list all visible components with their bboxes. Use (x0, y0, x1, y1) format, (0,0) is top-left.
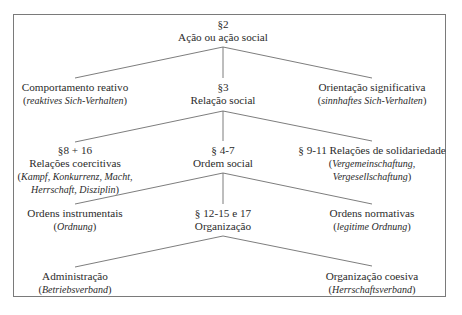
node-german-term: reaktives Sich-Verhalten (27, 95, 124, 106)
node-section: § 4-7 (193, 144, 253, 157)
node-label: Organização coesiva (326, 270, 419, 283)
node-label: Ação ou ação social (178, 31, 268, 44)
node-german-term: Herrschaftsverband (332, 284, 412, 295)
node-relacoes-coercitivas: §8 + 16 Relações coercitivas (Kampf, Kon… (17, 144, 132, 196)
node-label: Organização (195, 220, 251, 233)
connector-relacao-right (223, 111, 372, 141)
node-section: §3 (191, 81, 256, 94)
node-ordens-normativas: Ordens normativas (legitime Ordnung) (330, 207, 415, 233)
node-organizacao: § 12-15 e 17 Organização (195, 207, 251, 233)
node-comportamento-reativo: Comportamento reativo (reaktives Sich-Ve… (22, 81, 129, 107)
node-section: § 12-15 e 17 (195, 207, 251, 220)
node-german-term: Vergesellschaftung (333, 171, 408, 182)
node-organizacao-coesiva: Organização coesiva (Herrschaftsverband) (326, 270, 419, 296)
node-label: Orientação significativa (318, 81, 427, 94)
connector-root-left (75, 47, 223, 78)
node-relacao-social: §3 Relação social (191, 81, 256, 107)
node-label: Administração (38, 270, 111, 283)
node-administracao: Administração (Betriebsverband) (38, 270, 111, 296)
node-ordem-social: § 4-7 Ordem social (193, 144, 253, 170)
node-ordens-instrumentais: Ordens instrumentais (Ordnung) (27, 207, 122, 233)
node-section: §2 (178, 18, 268, 31)
connector-relacao-left (75, 111, 223, 142)
node-german-term: Kampf, Konkurrenz, Macht, (21, 171, 133, 182)
connector-organizacao-right (223, 236, 372, 266)
node-german-term: sinnhaftes Sich-Verhalten (321, 95, 423, 106)
connector-organizacao-left (75, 236, 223, 267)
node-acao-social: §2 Ação ou ação social (178, 18, 268, 44)
node-label: Ordens instrumentais (27, 207, 122, 220)
connector-root-right (223, 47, 372, 78)
node-label: Ordens normativas (330, 207, 415, 220)
node-german-term: Vergemeinschaftung, (332, 158, 415, 169)
node-label: § 9-11 Relações de solidariedade (298, 144, 445, 157)
node-label: Relações coercitivas (17, 157, 132, 170)
node-section: §8 + 16 (17, 144, 132, 157)
node-german-term: Betriebsverband (42, 284, 108, 295)
node-german-term: Ordnung (57, 221, 93, 232)
node-label: Relação social (191, 94, 256, 107)
node-german-term: Herrschaft, Disziplin (31, 184, 115, 195)
node-label: Comportamento reativo (22, 81, 129, 94)
node-label: Ordem social (193, 157, 253, 170)
node-relacoes-solidariedade: § 9-11 Relações de solidariedade (Vergem… (298, 144, 445, 183)
node-orientacao-significativa: Orientação significativa (sinnhaftes Sic… (318, 81, 427, 107)
node-german-term: legitime Ordnung (337, 221, 407, 232)
